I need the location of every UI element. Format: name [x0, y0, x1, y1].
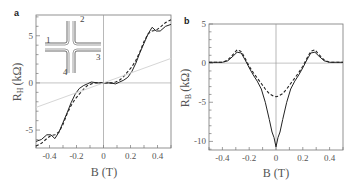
- y-tick-label: -5: [26, 125, 34, 135]
- y-tick-label: 5: [29, 31, 34, 41]
- x-tick-label: 0.4: [152, 151, 164, 161]
- panel-a: a 1234 -0.4-0.200.20.4 -505 B (T) RH(kΩ): [10, 8, 171, 179]
- panel-b-y-tick-labels: -10-505: [194, 19, 207, 146]
- panel-b-x-tick-labels: -0.4-0.200.20.4: [215, 153, 335, 163]
- panel-b-label: b: [184, 16, 190, 26]
- x-tick-label: -0.4: [42, 151, 57, 161]
- panel-a-y-axis-title: RH(kΩ): [10, 63, 25, 102]
- y-tick-label: -5: [199, 97, 207, 107]
- x-tick-label: 0.2: [125, 151, 136, 161]
- y-tick-label: 0: [29, 78, 34, 88]
- y-tick-label: -10: [194, 136, 206, 146]
- x-tick-label: 0.2: [297, 153, 308, 163]
- x-tick-label: 0: [274, 153, 279, 163]
- junction-inset: 1234: [45, 14, 101, 77]
- panel-a-label: a: [14, 8, 20, 18]
- terminal-label-3: 3: [96, 52, 101, 62]
- x-tick-label: -0.2: [69, 151, 83, 161]
- x-tick-label: -0.2: [242, 153, 256, 163]
- panel-a-x-axis-title: B (T): [91, 165, 117, 179]
- x-tick-label: -0.4: [215, 153, 230, 163]
- x-tick-label: 0: [101, 151, 106, 161]
- y-tick-label: 5: [202, 19, 207, 29]
- panel-a-plot-area: [36, 15, 171, 148]
- terminal-label-2: 2: [80, 14, 85, 24]
- x-tick-label: 0.4: [324, 153, 336, 163]
- terminal-label-1: 1: [46, 35, 51, 45]
- panel-b: b -0.4-0.200.20.4 -10-505 B (T) RB(kΩ): [178, 16, 343, 180]
- terminal-label-4: 4: [63, 67, 68, 77]
- y-tick-label: 0: [202, 58, 207, 68]
- panel-b-y-axis-title: RB(kΩ): [178, 69, 193, 107]
- figure: a 1234 -0.4-0.200.20.4 -505 B (T) RH(kΩ)…: [0, 0, 353, 189]
- panel-a-y-tick-labels: -505: [26, 31, 34, 135]
- panel-b-x-axis-title: B (T): [263, 166, 289, 180]
- panel-a-x-tick-labels: -0.4-0.200.20.4: [42, 151, 163, 161]
- panel-b-plot-area: [209, 24, 343, 150]
